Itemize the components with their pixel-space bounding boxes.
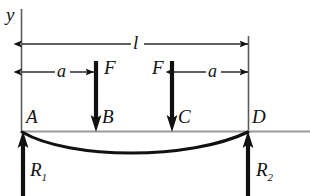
force-label-right: F <box>152 58 164 77</box>
reaction-label-right-subscript: 2 <box>268 171 274 183</box>
deflected-beam-curve <box>22 132 248 153</box>
span-label: l <box>133 33 138 52</box>
point-label-b: B <box>102 107 114 126</box>
reaction-label-right: R2 <box>256 160 273 183</box>
point-label-a: A <box>26 107 38 126</box>
point-label-c: C <box>178 107 191 126</box>
y-axis-label: y <box>6 5 14 24</box>
force-label-left: F <box>104 58 116 77</box>
reaction-label-left: R1 <box>30 160 47 183</box>
beam-load-diagram: y l a a F F A B C D R1 R2 <box>0 0 310 196</box>
reaction-label-left-symbol: R <box>30 159 42 180</box>
right-distance-label: a <box>208 62 217 80</box>
point-label-d: D <box>252 107 266 126</box>
reaction-label-left-subscript: 1 <box>42 171 48 183</box>
left-distance-label: a <box>57 62 66 80</box>
reaction-label-right-symbol: R <box>256 159 268 180</box>
